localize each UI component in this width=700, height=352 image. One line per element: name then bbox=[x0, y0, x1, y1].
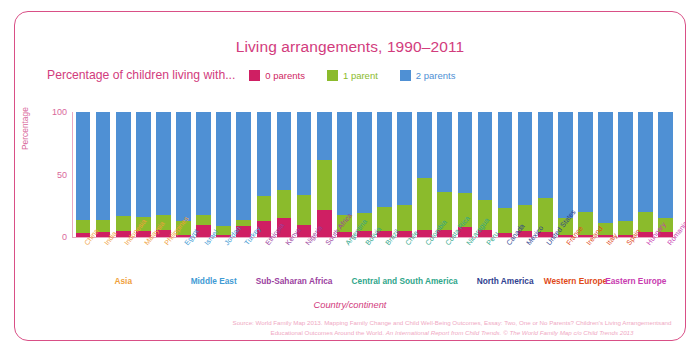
bar-segment-2-parents bbox=[236, 112, 251, 220]
bar-slot[interactable] bbox=[354, 112, 374, 237]
source-text-d: The World Family Map c/o Child Trends 20… bbox=[509, 329, 633, 336]
bar-segment-2-parents bbox=[277, 112, 292, 190]
stacked-bar[interactable] bbox=[196, 112, 211, 237]
legend-swatch-2-parents bbox=[400, 70, 411, 81]
stacked-bar[interactable] bbox=[397, 112, 412, 237]
bar-segment-2-parents bbox=[297, 112, 312, 195]
bar-segment-2-parents bbox=[598, 112, 613, 223]
bar-segment-2-parents bbox=[437, 112, 452, 192]
stacked-bar[interactable] bbox=[357, 112, 372, 237]
stacked-bar[interactable] bbox=[578, 112, 593, 237]
bar-segment-2-parents bbox=[196, 112, 211, 215]
bar-segment-1-parent bbox=[116, 216, 131, 231]
bar-slot[interactable] bbox=[73, 112, 93, 237]
bar-segment-2-parents bbox=[498, 112, 513, 208]
bar-slot[interactable] bbox=[314, 112, 334, 237]
legend-swatch-1-parent bbox=[327, 70, 338, 81]
bar-segment-2-parents bbox=[76, 112, 91, 220]
bar-slot[interactable] bbox=[374, 112, 394, 237]
stacked-bar[interactable] bbox=[518, 112, 533, 237]
bar-slot[interactable] bbox=[153, 112, 173, 237]
stacked-bar[interactable] bbox=[377, 112, 392, 237]
bar-segment-2-parents bbox=[518, 112, 533, 205]
region-label-western-europe: Western Europe bbox=[544, 276, 607, 286]
bar-segment-2-parents bbox=[578, 112, 593, 212]
stacked-bar[interactable] bbox=[498, 112, 513, 237]
bar-slot[interactable] bbox=[575, 112, 595, 237]
bar-slot[interactable] bbox=[113, 112, 133, 237]
bar-series-container bbox=[73, 112, 676, 237]
stacked-bar[interactable] bbox=[538, 112, 553, 237]
stacked-bar[interactable] bbox=[618, 112, 633, 237]
y-axis-tick-100: 100 bbox=[41, 107, 67, 117]
region-label-north-america: North America bbox=[477, 276, 534, 286]
bar-slot[interactable] bbox=[254, 112, 274, 237]
bar-slot[interactable] bbox=[214, 112, 234, 237]
bar-segment-2-parents bbox=[317, 112, 332, 160]
bar-slot[interactable] bbox=[294, 112, 314, 237]
legend-swatch-0-parents bbox=[249, 70, 260, 81]
bar-segment-2-parents bbox=[478, 112, 493, 200]
stacked-bar[interactable] bbox=[156, 112, 171, 237]
plot-area bbox=[73, 112, 676, 237]
stacked-bar[interactable] bbox=[116, 112, 131, 237]
bar-segment-2-parents bbox=[618, 112, 633, 221]
region-label-eastern-europe: Eastern Europe bbox=[605, 276, 666, 286]
stacked-bar[interactable] bbox=[317, 112, 332, 237]
bar-segment-2-parents bbox=[558, 112, 573, 218]
stacked-bar[interactable] bbox=[76, 112, 91, 237]
bar-segment-2-parents bbox=[417, 112, 432, 178]
stacked-bar[interactable] bbox=[216, 112, 231, 237]
stacked-bar[interactable] bbox=[598, 112, 613, 237]
bar-slot[interactable] bbox=[636, 112, 656, 237]
x-axis-tick-labels: ChinaIndiaIndonesiaMalaysiaPhilippinesEg… bbox=[73, 240, 676, 270]
bar-slot[interactable] bbox=[234, 112, 254, 237]
stacked-bar[interactable] bbox=[638, 112, 653, 237]
legend-item-2-parents: 2 parents bbox=[400, 70, 456, 81]
bar-slot[interactable] bbox=[395, 112, 415, 237]
stacked-bar[interactable] bbox=[417, 112, 432, 237]
bar-slot[interactable] bbox=[435, 112, 455, 237]
bar-slot[interactable] bbox=[535, 112, 555, 237]
bar-segment-2-parents bbox=[337, 112, 352, 215]
bar-segment-2-parents bbox=[176, 112, 191, 221]
bar-slot[interactable] bbox=[93, 112, 113, 237]
bar-slot[interactable] bbox=[656, 112, 676, 237]
bar-segment-2-parents bbox=[397, 112, 412, 205]
legend-label-0-parents: 0 parents bbox=[265, 70, 305, 81]
bar-slot[interactable] bbox=[274, 112, 294, 237]
bar-slot[interactable] bbox=[495, 112, 515, 237]
region-label-middle-east: Middle East bbox=[191, 276, 237, 286]
bar-slot[interactable] bbox=[616, 112, 636, 237]
bar-segment-2-parents bbox=[538, 112, 553, 198]
bar-segment-1-parent bbox=[638, 212, 653, 232]
y-axis-tick-0: 0 bbox=[41, 232, 67, 242]
bar-segment-2-parents bbox=[216, 112, 231, 226]
bar-segment-2-parents bbox=[257, 112, 272, 196]
stacked-bar[interactable] bbox=[257, 112, 272, 237]
stacked-bar[interactable] bbox=[96, 112, 111, 237]
region-label-central-and-south-america: Central and South America bbox=[352, 276, 458, 286]
bar-segment-2-parents bbox=[357, 112, 372, 213]
y-axis-tick-50: 50 bbox=[41, 170, 67, 180]
bar-slot[interactable] bbox=[194, 112, 214, 237]
bar-slot[interactable] bbox=[595, 112, 615, 237]
chart-card: Living arrangements, 1990–2011 Percentag… bbox=[14, 11, 686, 341]
stacked-bar[interactable] bbox=[297, 112, 312, 237]
bar-segment-1-parent bbox=[317, 160, 332, 210]
stacked-bar[interactable] bbox=[277, 112, 292, 237]
stacked-bar[interactable] bbox=[236, 112, 251, 237]
bar-slot[interactable] bbox=[415, 112, 435, 237]
region-label-sub-saharan-africa: Sub-Saharan Africa bbox=[256, 276, 333, 286]
bar-segment-2-parents bbox=[156, 112, 171, 215]
bar-segment-1-parent bbox=[257, 196, 272, 221]
bar-segment-2-parents bbox=[96, 112, 111, 220]
stacked-bar[interactable] bbox=[658, 112, 673, 237]
bar-segment-1-parent bbox=[76, 220, 91, 234]
bar-segment-1-parent bbox=[498, 208, 513, 233]
stacked-bar[interactable] bbox=[437, 112, 452, 237]
bar-segment-2-parents bbox=[658, 112, 673, 218]
bar-slot[interactable] bbox=[515, 112, 535, 237]
source-text-b: An International Report from Child Trend… bbox=[386, 329, 502, 336]
chart-legend: Percentage of children living with... 0 … bbox=[47, 68, 477, 82]
